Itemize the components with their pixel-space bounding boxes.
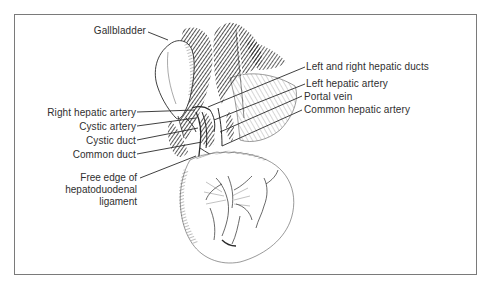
label-cystic-artery: Cystic artery: [20, 121, 136, 132]
label-free-edge-hepatoduodenal-ligament: Free edge of hepatoduodenal ligament: [40, 172, 137, 208]
stomach-shape: [180, 152, 294, 263]
label-free-edge-line3: ligament: [40, 196, 137, 208]
label-left-hepatic-artery: Left hepatic artery: [306, 78, 388, 89]
label-portal-vein: Portal vein: [304, 91, 352, 102]
label-common-hepatic-artery: Common hepatic artery: [304, 104, 410, 115]
label-free-edge-line1: Free edge of: [40, 172, 137, 184]
label-common-duct: Common duct: [20, 149, 136, 160]
label-free-edge-line2: hepatoduodenal: [40, 184, 137, 196]
label-gallbladder: Gallbladder: [86, 25, 146, 36]
label-cystic-duct: Cystic duct: [20, 135, 136, 146]
label-right-hepatic-artery: Right hepatic artery: [20, 107, 136, 118]
label-left-and-right-hepatic-ducts: Left and right hepatic ducts: [306, 61, 429, 72]
